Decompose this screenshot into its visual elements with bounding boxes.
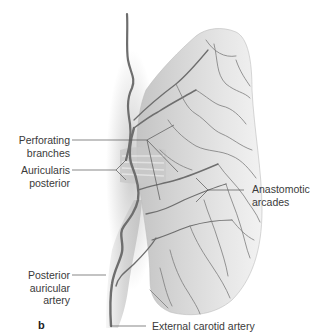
- panel-letter: b: [38, 319, 45, 331]
- label-line: Perforating: [4, 134, 70, 147]
- label-perforating-branches: Perforating branches: [4, 134, 70, 159]
- figure-panel: Perforating branches Auricularis posteri…: [0, 0, 313, 336]
- label-line: Anastomotic: [252, 183, 312, 196]
- label-anastomotic-arcades: Anastomotic arcades: [252, 183, 312, 208]
- label-posterior-auricular-artery: Posterior auricular artery: [0, 269, 70, 307]
- label-line: auricular artery: [0, 282, 70, 307]
- label-auricularis-posterior: Auricularis posterior: [4, 164, 70, 189]
- label-line: arcades: [252, 196, 312, 209]
- label-line: Posterior: [0, 269, 70, 282]
- label-line: Auricularis: [4, 164, 70, 177]
- label-line: branches: [4, 147, 70, 160]
- label-external-carotid-artery: External carotid artery: [152, 320, 312, 333]
- label-line: posterior: [4, 177, 70, 190]
